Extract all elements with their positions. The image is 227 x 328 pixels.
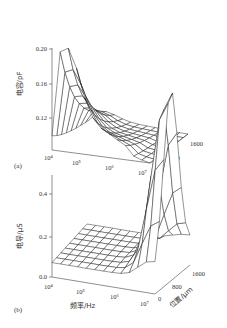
x-tick: 10⁵ [76, 288, 85, 295]
z-tick: 0.12 [36, 114, 47, 121]
z-tick: 0.0 [39, 273, 47, 280]
z-tick: 0.4 [39, 190, 48, 197]
z-tick: 0.20 [36, 45, 47, 52]
x-tick: 10⁷ [138, 169, 147, 176]
z-axis-label-b: 电导/μS [15, 223, 24, 249]
panel-label-a: (a) [14, 162, 22, 170]
x-tick: 10⁴ [44, 154, 54, 161]
x-axis-label-b: 频率/Hz [70, 301, 96, 310]
x-tick: 10⁶ [105, 164, 114, 171]
y-tick: 1600 [190, 140, 203, 147]
y-tick: 800 [172, 283, 182, 290]
panel-label-b: (b) [14, 306, 23, 314]
x-tick: 10⁶ [110, 293, 119, 300]
surface-charts: 0.20 0.16 0.12 电容/pF 10⁴ 10⁵ 10⁶ 10⁷ 0 8… [0, 0, 227, 328]
y-tick: 0 [158, 295, 161, 302]
x-axis-b [52, 277, 155, 294]
x-tick: 10⁵ [72, 159, 81, 166]
x-tick: 10⁷ [140, 300, 149, 307]
y-tick: 1600 [192, 270, 205, 277]
z-tick: 0.16 [36, 80, 48, 87]
x-tick: 10⁴ [44, 283, 54, 290]
z-tick: 0.2 [39, 233, 47, 240]
z-axis-label-a: 电容/pF [15, 72, 24, 97]
